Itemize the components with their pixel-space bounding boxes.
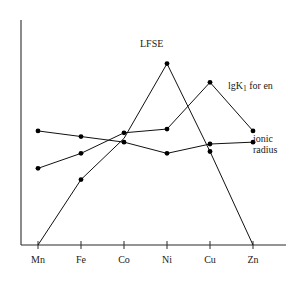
ionic-label-line1: ionic: [253, 133, 277, 144]
data-point-marker: [208, 142, 213, 147]
series-line-0: [38, 64, 253, 245]
x-tick-label-co: Co: [118, 254, 130, 265]
data-point-marker: [122, 140, 127, 145]
series-line-2: [38, 131, 253, 153]
data-point-marker: [36, 129, 41, 134]
x-tick-label-fe: Fe: [76, 254, 87, 265]
data-point-marker: [208, 149, 213, 154]
data-point-marker: [79, 177, 84, 182]
lgk1-label-tail: for en: [247, 80, 273, 91]
data-point-marker: [208, 80, 213, 85]
series-markers-group: [36, 61, 256, 182]
series-lines-group: [38, 64, 253, 245]
x-tick-label-cu: Cu: [204, 254, 216, 265]
data-point-marker: [79, 134, 84, 139]
data-point-marker: [165, 151, 170, 156]
series-label-lgk1: lgK1 for en: [228, 80, 273, 94]
series-label-ionic-radius: ionicradius: [253, 133, 277, 155]
data-point-marker: [36, 166, 41, 171]
series-line-1: [38, 82, 253, 168]
data-point-marker: [122, 130, 127, 135]
lgk1-label-main: lgK: [228, 80, 243, 91]
x-tick-label-zn: Zn: [247, 254, 258, 265]
x-tick-label-ni: Ni: [162, 254, 172, 265]
data-point-marker: [165, 61, 170, 66]
data-point-marker: [79, 151, 84, 156]
ionic-label-line2: radius: [253, 144, 277, 155]
x-axis-tick-labels: MnFeCoNiCuZn: [31, 254, 259, 265]
series-label-lfse: LFSE: [140, 38, 163, 49]
data-point-marker: [165, 127, 170, 132]
chart-container: MnFeCoNiCuZn LFSE lgK1 for en ionicradiu…: [0, 0, 301, 282]
x-tick-label-mn: Mn: [31, 254, 45, 265]
